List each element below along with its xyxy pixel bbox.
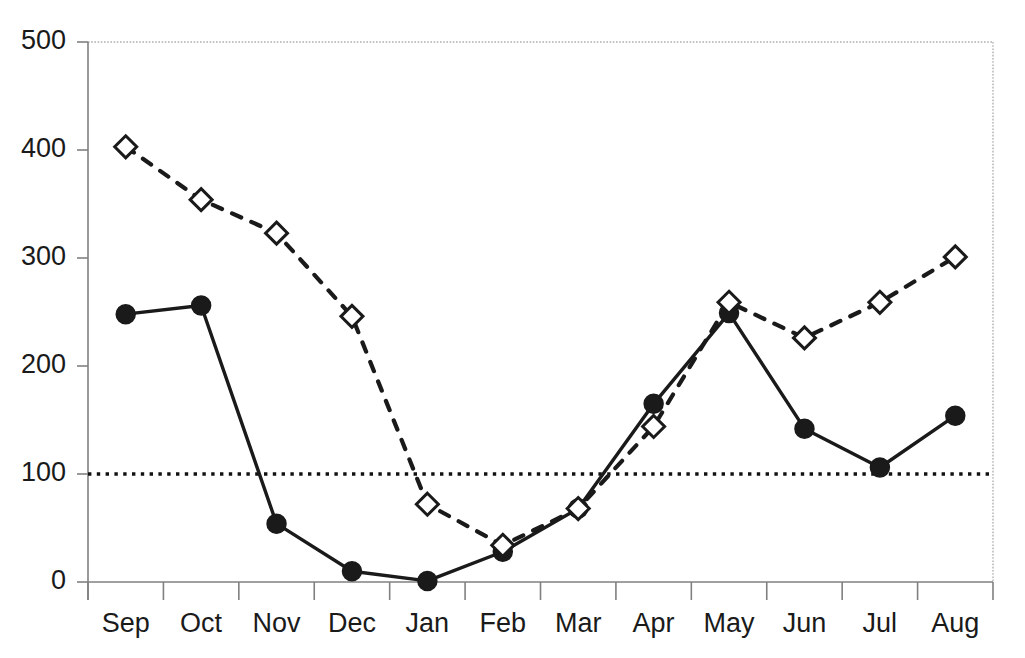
x-axis-label-sep: Sep bbox=[88, 610, 163, 637]
data-point-marker bbox=[266, 222, 288, 244]
x-axis-label-may: May bbox=[691, 610, 766, 637]
data-point-marker bbox=[116, 305, 135, 324]
data-point-marker bbox=[190, 189, 212, 211]
x-axis-label-apr: Apr bbox=[616, 610, 691, 637]
chart-container: 0100200300400500 SepOctNovDecJanFebMarAp… bbox=[0, 0, 1025, 658]
x-axis-label-oct: Oct bbox=[163, 610, 238, 637]
data-point-marker bbox=[416, 493, 438, 515]
y-axis-label-0: 0 bbox=[0, 567, 66, 594]
x-axis-label-mar: Mar bbox=[541, 610, 616, 637]
data-point-marker bbox=[418, 571, 437, 590]
x-axis-label-aug: Aug bbox=[918, 610, 993, 637]
data-point-marker bbox=[793, 327, 815, 349]
data-point-marker bbox=[946, 406, 965, 425]
data-point-marker bbox=[192, 296, 211, 315]
data-point-marker bbox=[870, 458, 889, 477]
x-axis-label-feb: Feb bbox=[465, 610, 540, 637]
data-point-marker bbox=[795, 419, 814, 438]
x-axis-label-jun: Jun bbox=[767, 610, 842, 637]
x-axis-label-jul: Jul bbox=[842, 610, 917, 637]
x-axis-label-nov: Nov bbox=[239, 610, 314, 637]
line-chart-plot bbox=[0, 0, 1025, 658]
data-point-marker bbox=[267, 514, 286, 533]
y-axis-label-100: 100 bbox=[0, 459, 66, 486]
data-point-marker bbox=[644, 394, 663, 413]
y-axis-label-200: 200 bbox=[0, 351, 66, 378]
y-axis-label-300: 300 bbox=[0, 243, 66, 270]
x-axis-label-dec: Dec bbox=[314, 610, 389, 637]
data-point-marker bbox=[869, 291, 891, 313]
y-axis-label-400: 400 bbox=[0, 135, 66, 162]
y-axis-label-500: 500 bbox=[0, 27, 66, 54]
data-point-marker bbox=[342, 562, 361, 581]
series-line-solid-circle-series bbox=[126, 306, 956, 581]
x-axis-label-jan: Jan bbox=[390, 610, 465, 637]
data-point-marker bbox=[944, 246, 966, 268]
series-line-dashed-diamond-series bbox=[126, 147, 956, 546]
